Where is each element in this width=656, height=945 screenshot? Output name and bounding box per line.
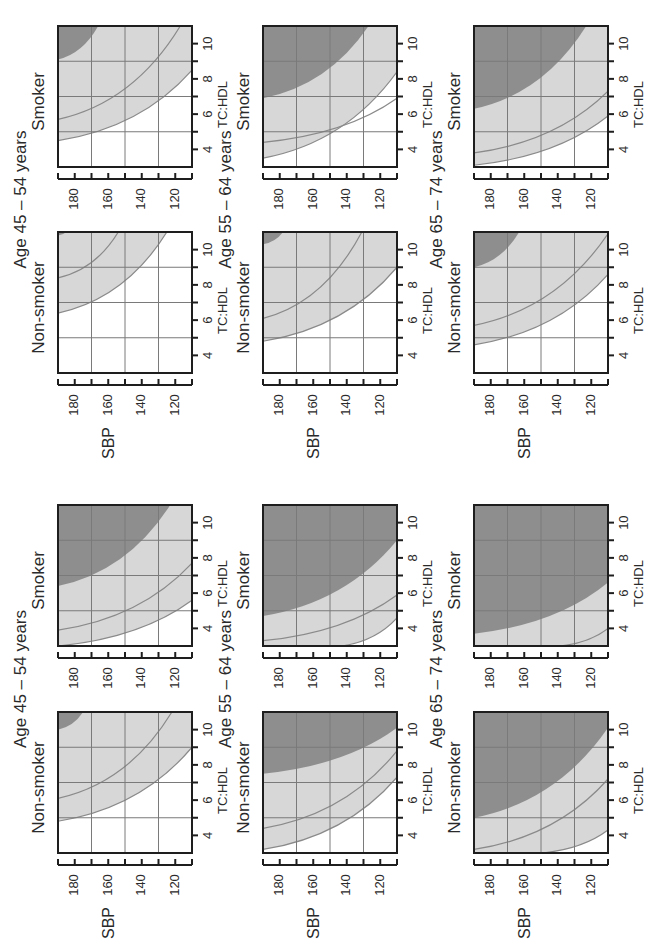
risk-chart-figure: Age 45 – 54 years46810TC:HDLSmoker46810T… xyxy=(0,0,656,945)
tc-tick-label: 4 xyxy=(405,146,420,153)
tc-tick-label: 8 xyxy=(200,75,215,82)
sbp-tick-label: 160 xyxy=(516,874,531,896)
sbp-tick-label: 140 xyxy=(549,394,564,416)
sbp-tick-label: 180 xyxy=(482,874,497,896)
tc-tick-label: 6 xyxy=(616,590,631,597)
chart-panel: 46810TC:HDLNon-smoker xyxy=(29,232,230,373)
tc-axis-label: TC:HDL xyxy=(420,560,435,607)
age-group-title: Age 55 – 64 years xyxy=(216,131,235,269)
tc-tick-label: 4 xyxy=(200,625,215,632)
sbp-axis-label: SBP xyxy=(100,907,117,939)
smoker-label: Smoker xyxy=(445,72,464,131)
sbp-tick-label: 140 xyxy=(549,188,564,210)
tc-tick-label: 4 xyxy=(405,625,420,632)
sbp-tick-label: 180 xyxy=(482,667,497,689)
sbp-axis-label: SBP xyxy=(516,427,533,459)
sbp-tick-label: 160 xyxy=(516,667,531,689)
sbp-tick-label: 160 xyxy=(100,188,115,210)
sbp-tick-label: 160 xyxy=(516,394,531,416)
sbp-axis-label: SBP xyxy=(516,907,533,939)
tc-tick-label: 4 xyxy=(200,146,215,153)
sbp-tick-label: 120 xyxy=(583,394,598,416)
smoker-label: Smoker xyxy=(234,72,253,131)
tc-tick-label: 8 xyxy=(616,761,631,768)
sbp-tick-label: 180 xyxy=(482,188,497,210)
smoker-label: Smoker xyxy=(29,72,48,131)
age-group-title: Age 45 – 54 years xyxy=(11,131,30,269)
sbp-axis: 120140160180 xyxy=(58,379,192,416)
sbp-tick-label: 140 xyxy=(338,874,353,896)
chart-panel: 46810TC:HDLNon-smoker xyxy=(234,232,435,373)
sbp-tick-label: 140 xyxy=(133,874,148,896)
sbp-tick-label: 120 xyxy=(583,874,598,896)
sbp-tick-label: 180 xyxy=(66,394,81,416)
tc-tick-label: 6 xyxy=(616,111,631,118)
age-group-title: Age 55 – 64 years xyxy=(216,610,235,748)
tc-axis-label: TC:HDL xyxy=(215,81,230,128)
sbp-tick-label: 120 xyxy=(167,394,182,416)
sbp-tick-label: 140 xyxy=(338,394,353,416)
tc-tick-label: 8 xyxy=(405,554,420,561)
sbp-tick-label: 180 xyxy=(66,874,81,896)
tc-tick-label: 4 xyxy=(616,832,631,839)
tc-tick-label: 6 xyxy=(200,590,215,597)
tc-tick-label: 10 xyxy=(200,36,215,50)
chart-panel: 46810TC:HDLSmoker xyxy=(445,26,646,167)
tc-tick-label: 10 xyxy=(616,36,631,50)
sbp-tick-label: 160 xyxy=(305,394,320,416)
tc-tick-label: 8 xyxy=(616,281,631,288)
sbp-tick-label: 160 xyxy=(516,188,531,210)
sbp-axis-label: SBP xyxy=(305,427,322,459)
non-smoker-label: Non-smoker xyxy=(234,261,253,354)
sbp-tick-label: 180 xyxy=(271,188,286,210)
tc-tick-label: 4 xyxy=(616,352,631,359)
non-smoker-label: Non-smoker xyxy=(29,261,48,354)
tc-axis-label: TC:HDL xyxy=(631,767,646,814)
sbp-tick-label: 140 xyxy=(338,667,353,689)
tc-tick-label: 10 xyxy=(405,722,420,736)
tc-tick-label: 6 xyxy=(405,111,420,118)
tc-tick-label: 4 xyxy=(616,625,631,632)
tc-tick-label: 6 xyxy=(616,317,631,324)
sbp-axis: 120140160180 xyxy=(263,173,397,210)
sbp-tick-label: 160 xyxy=(305,667,320,689)
sbp-tick-label: 180 xyxy=(482,394,497,416)
sbp-tick-label: 120 xyxy=(167,188,182,210)
sbp-axis: 120140160180 xyxy=(263,859,397,896)
tc-tick-label: 8 xyxy=(616,75,631,82)
tc-tick-label: 10 xyxy=(200,722,215,736)
tc-tick-label: 4 xyxy=(200,352,215,359)
sbp-tick-label: 120 xyxy=(372,667,387,689)
sbp-tick-label: 180 xyxy=(271,667,286,689)
non-smoker-label: Non-smoker xyxy=(29,741,48,834)
tc-tick-label: 6 xyxy=(616,797,631,804)
tc-axis-label: TC:HDL xyxy=(420,287,435,334)
tc-tick-label: 6 xyxy=(200,797,215,804)
sbp-axis: 120140160180 xyxy=(263,379,397,416)
chart-panel: 46810TC:HDLSmoker xyxy=(234,505,435,646)
tc-tick-label: 10 xyxy=(405,242,420,256)
tc-tick-label: 8 xyxy=(616,554,631,561)
chart-panel: 46810TC:HDLSmoker xyxy=(234,26,435,167)
sbp-tick-label: 140 xyxy=(133,188,148,210)
non-smoker-label: Non-smoker xyxy=(234,741,253,834)
tc-tick-label: 4 xyxy=(405,352,420,359)
tc-tick-label: 10 xyxy=(405,515,420,529)
sbp-axis: 120140160180 xyxy=(474,173,608,210)
smoker-label: Smoker xyxy=(445,551,464,610)
non-smoker-label: Non-smoker xyxy=(445,261,464,354)
sbp-tick-label: 140 xyxy=(133,667,148,689)
age-group-title: Age 65 – 74 years xyxy=(427,131,446,269)
age-group-title: Age 65 – 74 years xyxy=(427,610,446,748)
sbp-tick-label: 140 xyxy=(133,394,148,416)
tc-tick-label: 4 xyxy=(200,832,215,839)
tc-tick-label: 8 xyxy=(200,554,215,561)
sbp-tick-label: 160 xyxy=(100,394,115,416)
sbp-tick-label: 120 xyxy=(583,667,598,689)
tc-tick-label: 10 xyxy=(616,242,631,256)
sbp-tick-label: 140 xyxy=(549,667,564,689)
tc-tick-label: 6 xyxy=(200,317,215,324)
tc-tick-label: 6 xyxy=(200,111,215,118)
tc-axis-label: TC:HDL xyxy=(215,287,230,334)
sbp-axis: 120140160180 xyxy=(474,652,608,689)
